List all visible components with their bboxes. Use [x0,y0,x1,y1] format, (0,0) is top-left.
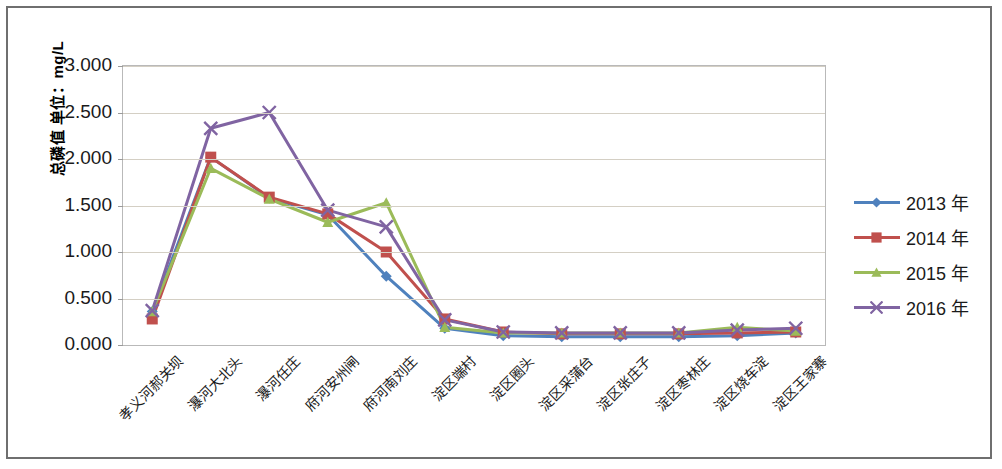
data-point-marker [871,267,881,276]
x-axis-tick-label: 淀区张庄子 [592,351,656,415]
gridline [123,299,825,300]
legend-label: 2013 年 [900,189,969,215]
gridline [123,113,825,114]
y-axis-tick-label: 0.000 [46,333,112,355]
legend-swatch [854,265,900,279]
y-axis-tickmark [118,66,123,67]
x-axis-tick-label: 孝义河郝关坝 [114,351,188,425]
legend-label: 2015 年 [900,259,969,285]
gridline [123,252,825,253]
y-axis-tick-label: 2.500 [46,101,112,123]
chart-legend: 2013 年2014 年2015 年2016 年 [854,184,986,324]
x-axis-tick-label: 淀区端村 [426,351,480,405]
legend-item[interactable]: 2013 年 [854,184,986,219]
series-line [152,168,796,333]
y-axis-tickmark [118,299,123,300]
x-axis-tick-label: 淀区王家寨 [767,351,831,415]
y-axis-tick-label: 1.500 [46,194,112,216]
gridline [123,66,825,67]
data-point-marker [871,232,881,242]
legend-marker-icon [870,196,883,209]
y-axis-tick-labels: 3.0002.5002.0001.5001.0000.5000.000 [46,8,112,457]
legend-marker-icon [870,301,883,314]
x-axis-tick-label: 淀区枣林庄 [650,351,714,415]
series-line [152,113,796,333]
y-axis-tickmark [118,159,123,160]
legend-label: 2016 年 [900,294,969,320]
legend-swatch [854,230,900,244]
x-axis-tick-label: 瀑河任庄 [251,351,305,405]
y-axis-tickmark [118,206,123,207]
plot-area [122,65,826,346]
y-axis-tick-label: 0.500 [46,287,112,309]
legend-marker-icon [870,266,883,279]
legend-label: 2014 年 [900,224,969,250]
gridline [123,159,825,160]
y-axis-tick-label: 3.000 [46,54,112,76]
x-axis-tick-label: 府河安州闸 [299,351,363,415]
series-line [152,157,796,334]
legend-marker-icon [870,231,883,244]
y-axis-tick-label: 1.000 [46,240,112,262]
legend-item[interactable]: 2016 年 [854,289,986,324]
y-axis-tickmark [118,345,123,346]
data-point-marker [871,197,881,207]
x-axis-tick-label: 瀑河大北头 [182,351,246,415]
legend-item[interactable]: 2014 年 [854,219,986,254]
chart-frame: 总磷值 单位：mg/L 3.0002.5002.0001.5001.0000.5… [6,6,992,459]
y-axis-tick-label: 2.000 [46,147,112,169]
chart-canvas: 总磷值 单位：mg/L 3.0002.5002.0001.5001.0000.5… [8,8,990,457]
data-point-marker [870,301,882,313]
x-axis-tick-label: 淀区采蒲台 [533,351,597,415]
data-point-marker [205,152,216,163]
x-axis-tick-label: 淀区烧车淀 [709,351,773,415]
x-axis-tick-label: 府河南刘庄 [358,351,422,415]
x-axis-tick-label: 淀区圈头 [485,351,539,405]
x-axis-tick-labels: 孝义河郝关坝瀑河大北头瀑河任庄府河安州闸府河南刘庄淀区端村淀区圈头淀区采蒲台淀区… [122,347,826,467]
y-axis-tickmark [118,113,123,114]
y-axis-tickmark [118,252,123,253]
legend-swatch [854,195,900,209]
legend-swatch [854,300,900,314]
gridline [123,206,825,207]
legend-item[interactable]: 2015 年 [854,254,986,289]
